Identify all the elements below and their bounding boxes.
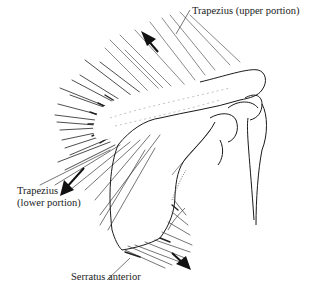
label-trapezius-lower-line2: (lower portion) <box>17 197 81 209</box>
arrow-down-right-icon <box>172 253 191 270</box>
artist-signature <box>172 170 186 200</box>
anatomical-figure: Trapezius (upper portion) Trapezius (low… <box>0 0 317 294</box>
label-serratus-anterior: Serratus anterior <box>71 271 141 283</box>
label-trapezius-lower: Trapezius (lower portion) <box>17 185 81 209</box>
label-trapezius-upper: Trapezius (upper portion) <box>192 5 300 17</box>
scapula-illustration <box>0 0 317 294</box>
arrow-up-left-icon <box>141 31 158 52</box>
label-trapezius-lower-line1: Trapezius <box>17 185 81 197</box>
serratus-anterior-fibers <box>125 200 192 268</box>
trapezius-muscle-body <box>93 74 260 140</box>
